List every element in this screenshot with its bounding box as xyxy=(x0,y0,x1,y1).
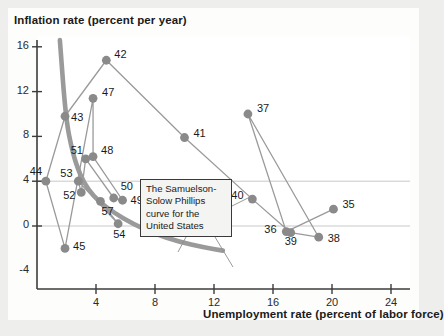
x-tick-label-8: 8 xyxy=(139,296,171,308)
data-point-label-44: 44 xyxy=(30,165,42,177)
annotation-line-4: United States xyxy=(146,220,227,232)
y-tick-label-4: 4 xyxy=(3,173,29,185)
annotation-line-3: curve for the xyxy=(146,208,227,220)
data-point-label-42: 42 xyxy=(114,48,126,60)
y-tick-label-16: 16 xyxy=(3,39,29,51)
data-point-50 xyxy=(109,194,118,203)
data-point-45 xyxy=(61,244,70,253)
data-point-label-50: 50 xyxy=(121,180,133,192)
data-point-label-41: 41 xyxy=(194,127,206,139)
data-point-47 xyxy=(89,94,98,103)
data-point-label-48: 48 xyxy=(101,144,113,156)
x-tick-label-12: 12 xyxy=(198,296,230,308)
data-point-35 xyxy=(329,205,338,214)
data-point-label-52: 52 xyxy=(63,189,75,201)
data-point-label-57: 57 xyxy=(101,205,113,217)
data-point-label-35: 35 xyxy=(342,198,354,210)
x-axis-title: Unemployment rate (percent of labor forc… xyxy=(203,308,444,320)
data-point-label-40: 40 xyxy=(231,189,243,201)
data-point-label-47: 47 xyxy=(102,86,114,98)
data-point-41 xyxy=(180,133,189,142)
data-point-42 xyxy=(102,56,111,65)
x-tick-label-4: 4 xyxy=(80,296,112,308)
data-point-label-53: 53 xyxy=(60,167,72,179)
data-point-44 xyxy=(41,177,50,186)
phillips-curve-annotation: The Samuelson- Solow Phillips curve for … xyxy=(140,179,232,237)
data-point-43 xyxy=(61,112,70,121)
data-point-38 xyxy=(314,233,323,242)
data-point-label-43: 43 xyxy=(71,111,83,123)
data-point-label-37: 37 xyxy=(257,102,269,114)
data-point-52 xyxy=(77,188,86,197)
x-tick-label-24: 24 xyxy=(375,296,407,308)
y-tick-label-0: 0 xyxy=(3,218,29,230)
annotation-line-1: The Samuelson- xyxy=(146,183,227,195)
x-tick-label-16: 16 xyxy=(257,296,289,308)
data-point-label-39: 39 xyxy=(285,235,297,247)
data-point-53 xyxy=(74,177,83,186)
data-point-label-54: 54 xyxy=(113,228,125,240)
y-tick-label--4: -4 xyxy=(3,263,29,275)
y-tick-label-8: 8 xyxy=(3,128,29,140)
chart-title: Inflation rate (percent per year) xyxy=(14,14,187,26)
x-tick-label-20: 20 xyxy=(316,296,348,308)
data-point-40 xyxy=(248,195,257,204)
y-tick-label-12: 12 xyxy=(3,84,29,96)
data-point-37 xyxy=(244,110,253,119)
data-point-label-36: 36 xyxy=(264,223,276,235)
data-point-label-51: 51 xyxy=(71,144,83,156)
annotation-line-2: Solow Phillips xyxy=(146,195,227,207)
data-point-label-38: 38 xyxy=(328,232,340,244)
data-point-label-45: 45 xyxy=(73,240,85,252)
data-point-49 xyxy=(118,196,127,205)
